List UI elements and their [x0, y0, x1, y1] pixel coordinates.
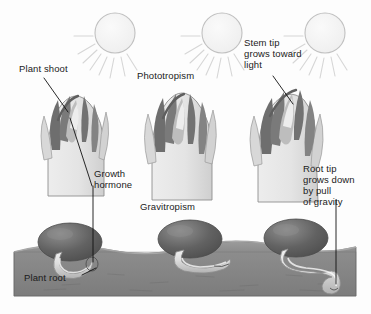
label-root-tip: Root tip grows down by pull of gravity [303, 163, 355, 207]
label-plant-shoot: Plant shoot [19, 63, 68, 74]
sun-center-icon [181, 13, 244, 78]
label-stem-tip: Stem tip grows toward light [244, 37, 302, 70]
label-gravitropism: Gravitropism [140, 201, 195, 212]
label-phototropism: Phototropism [137, 70, 194, 81]
tropism-illustration [0, 0, 371, 314]
label-growth-hormone: Growth hormone [94, 168, 132, 190]
diagram-canvas: Plant shoot Phototropism Stem tip grows … [0, 0, 371, 314]
plant-shoot-center [145, 93, 217, 200]
label-plant-root: Plant root [24, 272, 66, 283]
sun-left-icon [74, 13, 137, 78]
